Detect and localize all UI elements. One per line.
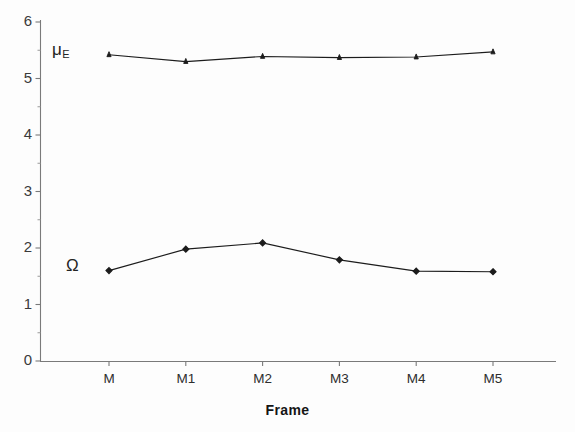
line-chart-plot — [0, 0, 575, 432]
axis-lines — [40, 20, 556, 362]
data-point-marker — [106, 268, 112, 274]
y-tick-label: 3 — [6, 182, 32, 199]
data-point-marker — [261, 53, 265, 58]
data-point-marker — [184, 58, 188, 63]
data-point-marker — [260, 240, 266, 246]
data-point-marker — [414, 54, 418, 59]
x-tick-label: M4 — [392, 371, 440, 386]
data-point-marker — [337, 54, 341, 59]
series-label-omega-text: Ω — [66, 256, 79, 275]
x-axis-title: Frame — [0, 402, 575, 418]
series-layer — [106, 49, 496, 275]
data-point-marker — [490, 269, 496, 275]
series-label-omega: Ω — [66, 256, 79, 276]
x-tick-label: M — [85, 371, 133, 386]
x-tick-label: M1 — [162, 371, 210, 386]
y-tick-label: 6 — [6, 12, 32, 29]
series-label-mu-e-text: μ — [52, 40, 62, 59]
data-point-marker — [413, 268, 419, 274]
y-tick-label: 1 — [6, 295, 32, 312]
data-point-marker — [491, 49, 495, 54]
data-point-marker — [107, 52, 111, 57]
y-tick-label: 2 — [6, 238, 32, 255]
x-tick-label: M3 — [315, 371, 363, 386]
data-point-marker — [183, 246, 189, 252]
y-tick-label: 5 — [6, 69, 32, 86]
series-label-mu-e-subscript: E — [62, 48, 69, 60]
x-tick-label: M5 — [469, 371, 517, 386]
y-tick-label: 0 — [6, 351, 32, 368]
series-line-Omega — [109, 243, 493, 272]
series-line-mu_E — [109, 52, 493, 62]
y-tick-label: 4 — [6, 125, 32, 142]
data-point-marker — [337, 257, 343, 263]
y-axis-major-ticks — [36, 22, 41, 361]
x-tick-label: M2 — [239, 371, 287, 386]
series-label-mu-e: μE — [52, 40, 69, 60]
chart-figure: 0123456 MM1M2M3M4M5 μE Ω Frame — [0, 0, 575, 432]
